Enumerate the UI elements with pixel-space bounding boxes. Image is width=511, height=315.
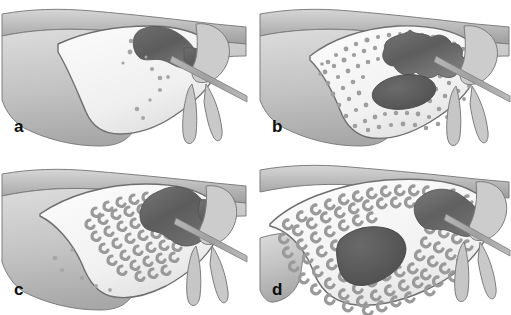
panel-a [0,0,248,150]
panel-b-illustration [258,0,511,150]
panel-c-illustration [0,158,248,315]
panel-d-illustration [258,158,511,315]
panel-label-a: a [14,118,23,135]
panel-label-d: d [272,281,282,298]
panel-label-c: c [14,281,23,298]
panel-a-illustration [0,0,248,150]
figure-container: a [0,0,511,315]
panel-b [258,0,511,150]
panel-d [258,158,511,315]
panel-label-b: b [272,118,282,135]
panel-c [0,158,248,315]
